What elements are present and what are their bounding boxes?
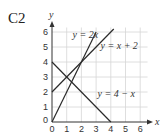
x-tick-label: 4 bbox=[108, 124, 113, 133]
axes: xy bbox=[48, 9, 160, 127]
y-tick-label: 1 bbox=[43, 102, 48, 112]
y-axis-arrow-icon bbox=[50, 21, 55, 27]
line-chart: xy 01234561234560 y = 2xy = x + 2y = 4 −… bbox=[0, 0, 162, 133]
y-tick-label: 3 bbox=[43, 72, 48, 82]
y-tick-label: 0 bbox=[43, 115, 48, 125]
y-axis-label: y bbox=[48, 9, 54, 20]
y-tick-label: 5 bbox=[43, 42, 48, 52]
x-tick-label: 5 bbox=[123, 124, 128, 133]
y-tick-label: 6 bbox=[43, 27, 48, 37]
series-label: y = 2x bbox=[72, 29, 99, 40]
y-tick-label: 2 bbox=[43, 87, 48, 97]
x-tick-label: 2 bbox=[79, 124, 84, 133]
series-label: y = x + 2 bbox=[100, 40, 138, 51]
x-tick-label: 0 bbox=[50, 124, 55, 133]
x-tick-label: 6 bbox=[138, 124, 143, 133]
x-tick-label: 3 bbox=[94, 124, 99, 133]
x-axis-label: x bbox=[154, 116, 160, 127]
x-tick-label: 1 bbox=[64, 124, 69, 133]
y-tick-label: 4 bbox=[43, 57, 48, 67]
x-axis-arrow-icon bbox=[147, 120, 153, 125]
series-label: y = 4 − x bbox=[97, 88, 136, 99]
